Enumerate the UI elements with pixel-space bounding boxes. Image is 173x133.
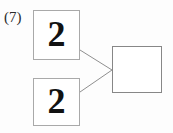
sum-answer-box[interactable] — [112, 46, 162, 93]
connector-line-addend-1 — [80, 50, 112, 70]
problem-number-label: (7) — [4, 8, 22, 27]
addend-box-2[interactable]: 2 — [33, 78, 80, 126]
addend-value-1: 2 — [48, 16, 66, 52]
addend-value-2: 2 — [48, 83, 66, 119]
worksheet-canvas: (7) 2 2 — [0, 0, 173, 133]
connector-line-addend-2 — [80, 70, 112, 92]
addend-box-1[interactable]: 2 — [33, 10, 80, 60]
